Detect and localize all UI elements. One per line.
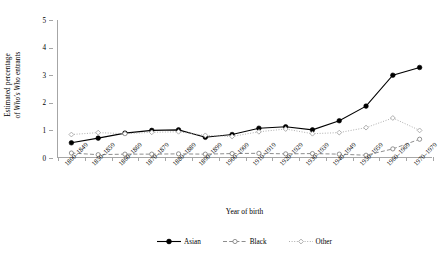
- legend-key-asian-icon: [157, 237, 181, 246]
- y-axis-title: Estimated percentage of Who's Who entran…: [4, 10, 40, 160]
- series-asian: [69, 65, 422, 145]
- y-tick-4: 4: [49, 48, 53, 49]
- data-point-asian-10: [337, 118, 342, 123]
- data-point-black-13: [418, 137, 422, 141]
- y-tick-3: 3: [49, 75, 53, 76]
- y-tick-1: 1: [49, 130, 53, 131]
- chart-legend: AsianBlackOther: [57, 237, 432, 246]
- series-other: [69, 116, 422, 139]
- data-point-other-11: [364, 125, 369, 130]
- data-point-asian-11: [364, 104, 369, 109]
- y-tick-label-5: 5: [42, 16, 46, 27]
- x-axis-title: Year of birth: [57, 207, 432, 216]
- y-tick-2: 2: [49, 103, 53, 104]
- y-tick-label-0: 0: [42, 154, 46, 165]
- x-tick-14: [433, 157, 434, 161]
- data-point-other-0: [69, 132, 74, 137]
- legend-item-other[interactable]: Other: [289, 237, 332, 246]
- data-point-other-9: [310, 131, 315, 136]
- y-tick-label-2: 2: [42, 98, 46, 109]
- data-point-black-12: [391, 147, 395, 151]
- chart-figure: Estimated percentage of Who's Who entran…: [0, 0, 440, 261]
- y-tick-label-4: 4: [42, 43, 46, 54]
- legend-label-asian: Asian: [184, 238, 201, 246]
- legend-item-black[interactable]: Black: [223, 237, 267, 246]
- y-axis-title-line2-pre: of: [14, 110, 22, 118]
- legend-label-black: Black: [250, 238, 267, 246]
- series-canvas: [58, 20, 432, 157]
- legend-key-other-icon: [289, 237, 313, 246]
- data-point-other-1: [96, 130, 101, 135]
- plot-area: 012345: [57, 20, 432, 158]
- legend-key-black-icon: [223, 237, 247, 246]
- data-point-asian-12: [391, 73, 396, 78]
- line-chart-svg: [58, 20, 433, 158]
- y-tick-0: 0: [49, 158, 53, 159]
- data-point-asian-1: [96, 136, 101, 141]
- data-point-asian-13: [417, 65, 422, 70]
- y-axis-title-line1: Estimated percentage: [4, 53, 12, 117]
- legend-label-other: Other: [316, 238, 332, 246]
- y-axis-title-line2-mid: entrants: [14, 52, 22, 77]
- data-point-other-12: [390, 116, 395, 121]
- data-point-other-10: [337, 130, 342, 135]
- data-point-other-13: [417, 128, 422, 133]
- y-tick-label-1: 1: [42, 126, 46, 137]
- data-point-asian-0: [69, 141, 74, 146]
- y-axis-title-italic: Who's Who: [14, 77, 22, 110]
- y-tick-label-3: 3: [42, 71, 46, 82]
- legend-item-asian[interactable]: Asian: [157, 237, 201, 246]
- y-tick-5: 5: [49, 20, 53, 21]
- y-axis-title-text: Estimated percentage of Who's Who entran…: [4, 10, 23, 160]
